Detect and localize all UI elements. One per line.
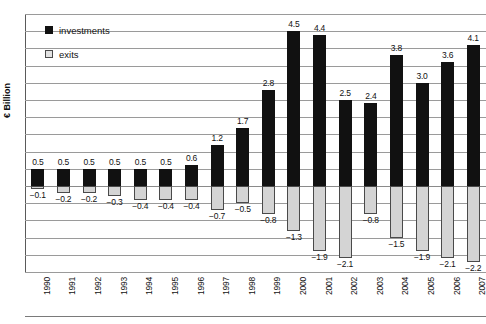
bar-exits[interactable]	[339, 186, 352, 258]
bar-investments[interactable]	[31, 169, 44, 186]
bar-slot: 1.7−0.5	[236, 14, 249, 272]
bar-slot: 3.8−1.5	[390, 14, 403, 272]
x-tick-label-1999: 1999	[272, 277, 282, 313]
x-tick-label-1990: 1990	[42, 277, 52, 313]
bar-slot: 0.5−0.1	[31, 14, 44, 272]
x-tick-label-2002: 2002	[349, 277, 359, 313]
bar-investments[interactable]	[236, 128, 249, 187]
bar-slot: 1.2−0.7	[211, 14, 224, 272]
x-tick-label-1998: 1998	[247, 277, 257, 313]
bar-investments[interactable]	[467, 45, 480, 186]
x-tick-label-2004: 2004	[400, 277, 410, 313]
bar-slot: 0.6−0.4	[185, 14, 198, 272]
x-tick-label-1992: 1992	[93, 277, 103, 313]
bar-investments[interactable]	[134, 169, 147, 186]
bar-value-label-investments: 2.4	[356, 92, 386, 101]
bar-value-label-investments: 3.6	[433, 51, 463, 60]
legend-item-exits: exits	[45, 42, 110, 66]
legend-label-exits: exits	[59, 49, 79, 60]
bar-investments[interactable]	[211, 145, 224, 186]
bar-value-label-investments: 4.1	[458, 34, 486, 43]
bar-value-label-exits: −0.5	[228, 205, 258, 214]
bar-value-label-investments: 2.8	[253, 79, 283, 88]
bar-slot: 0.5−0.3	[108, 14, 121, 272]
bar-investments[interactable]	[339, 100, 352, 186]
gridline	[25, 272, 486, 273]
bar-value-label-exits: −1.3	[279, 233, 309, 242]
bar-slot: 0.5−0.4	[134, 14, 147, 272]
x-axis-baseline-2	[25, 316, 486, 317]
bar-slot: 4.5−1.3	[287, 14, 300, 272]
bar-exits[interactable]	[211, 186, 224, 210]
bar-exits[interactable]	[159, 186, 172, 200]
bar-investments[interactable]	[390, 55, 403, 186]
x-tick-label-1995: 1995	[170, 277, 180, 313]
bar-slot: 4.4−1.9	[313, 14, 326, 272]
bar-value-label-investments: 3.8	[381, 44, 411, 53]
bar-value-label-investments: 1.7	[228, 117, 258, 126]
bar-exits[interactable]	[185, 186, 198, 200]
bar-investments[interactable]	[441, 62, 454, 186]
bar-investments[interactable]	[159, 169, 172, 186]
bar-exits[interactable]	[57, 186, 70, 193]
bar-investments[interactable]	[287, 31, 300, 186]
bar-slot: 0.5−0.4	[159, 14, 172, 272]
bar-value-label-investments: 4.4	[305, 24, 335, 33]
bar-value-label-exits: −0.4	[177, 202, 207, 211]
x-tick-label-1997: 1997	[221, 277, 231, 313]
bar-value-label-investments: 0.6	[177, 154, 207, 163]
bar-investments[interactable]	[416, 83, 429, 186]
bar-value-label-exits: −2.1	[330, 260, 360, 269]
bar-exits[interactable]	[134, 186, 147, 200]
bar-value-label-exits: −0.8	[253, 216, 283, 225]
bar-exits[interactable]	[31, 186, 44, 189]
bar-investments[interactable]	[313, 35, 326, 186]
bar-exits[interactable]	[441, 186, 454, 258]
x-tick-label-1996: 1996	[196, 277, 206, 313]
bar-value-label-investments: 1.2	[202, 134, 232, 143]
x-tick-label-1994: 1994	[144, 277, 154, 313]
bar-exits[interactable]	[236, 186, 249, 203]
legend-swatch-investments-icon	[45, 26, 53, 34]
chart-legend: investments exits	[45, 18, 110, 66]
legend-item-investments: investments	[45, 18, 110, 42]
bar-investments[interactable]	[364, 103, 377, 186]
bar-investments[interactable]	[108, 169, 121, 186]
x-tick-label-2007: 2007	[477, 277, 486, 313]
bar-slot: 2.4−0.8	[364, 14, 377, 272]
x-tick-label-2000: 2000	[298, 277, 308, 313]
bar-investments[interactable]	[83, 169, 96, 186]
bar-exits[interactable]	[364, 186, 377, 214]
x-tick-label-1991: 1991	[67, 277, 77, 313]
x-tick-label-2001: 2001	[324, 277, 334, 313]
bar-value-label-exits: −2.2	[458, 264, 486, 273]
bar-exits[interactable]	[313, 186, 326, 251]
bar-investments[interactable]	[262, 90, 275, 186]
bar-exits[interactable]	[390, 186, 403, 238]
bar-slot: 4.1−2.2	[467, 14, 480, 272]
bar-exits[interactable]	[467, 186, 480, 262]
chart-container: € Billion 0.5−0.10.5−0.20.5−0.20.5−0.30.…	[0, 0, 486, 324]
bar-investments[interactable]	[57, 169, 70, 186]
legend-swatch-exits-icon	[45, 50, 53, 58]
bar-exits[interactable]	[108, 186, 121, 196]
x-tick-label-2006: 2006	[452, 277, 462, 313]
bar-slot: 2.5−2.1	[339, 14, 352, 272]
x-tick-label-2005: 2005	[426, 277, 436, 313]
y-axis-title: € Billion	[2, 38, 12, 118]
legend-label-investments: investments	[59, 25, 110, 36]
bar-value-label-exits: −0.8	[356, 216, 386, 225]
bar-slot: 2.8−0.8	[262, 14, 275, 272]
bar-exits[interactable]	[83, 186, 96, 193]
bar-exits[interactable]	[287, 186, 300, 231]
x-tick-label-1993: 1993	[119, 277, 129, 313]
bar-exits[interactable]	[262, 186, 275, 214]
bar-value-label-investments: 3.0	[407, 72, 437, 81]
x-tick-label-2003: 2003	[375, 277, 385, 313]
bar-exits[interactable]	[416, 186, 429, 251]
bar-slot: 3.6−2.1	[441, 14, 454, 272]
bar-value-label-exits: −1.5	[381, 240, 411, 249]
bar-slot: 3.0−1.9	[416, 14, 429, 272]
bar-investments[interactable]	[185, 165, 198, 186]
